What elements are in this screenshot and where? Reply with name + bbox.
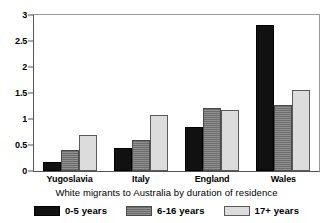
bar[interactable]	[132, 140, 150, 171]
bar[interactable]	[221, 110, 239, 171]
bar[interactable]	[185, 127, 203, 171]
legend-item[interactable]: 6-16 years	[126, 206, 204, 216]
y-axis-tick-label: 3	[22, 11, 27, 20]
legend-label: 0-5 years	[65, 206, 107, 216]
bar[interactable]	[61, 150, 79, 171]
legend-label: 6-16 years	[157, 206, 204, 216]
bars-layer	[34, 15, 319, 171]
bar[interactable]	[79, 135, 97, 171]
bar-group	[105, 15, 176, 171]
y-axis-tick-label: 2.5	[15, 37, 27, 46]
y-axis-tick-mark	[28, 93, 33, 94]
x-axis-category-label: Italy	[132, 174, 150, 185]
bar[interactable]	[150, 115, 168, 171]
y-axis-tick-mark	[28, 15, 33, 16]
bar[interactable]	[203, 108, 221, 171]
x-axis-category-label: England	[195, 174, 230, 185]
bar[interactable]	[274, 105, 292, 171]
x-axis-category-label: Yugoslavia	[47, 174, 93, 185]
x-axis-category-labels: YugoslaviaItalyEnglandWales	[34, 174, 319, 186]
bar[interactable]	[114, 148, 132, 171]
bar-group	[34, 15, 105, 171]
bar-group	[248, 15, 319, 171]
y-axis-tick-label: 2	[22, 63, 27, 72]
y-axis-tick-mark	[28, 171, 33, 172]
bar[interactable]	[292, 90, 310, 171]
y-axis-tick-label: 0.5	[15, 141, 27, 150]
legend-item[interactable]: 17+ years	[224, 206, 300, 216]
y-axis-tick-label: 0	[22, 167, 27, 176]
bar-chart-figure: 00.511.522.53 YugoslaviaItalyEnglandWale…	[0, 0, 333, 223]
bar[interactable]	[256, 25, 274, 171]
legend-swatch-icon	[224, 206, 250, 216]
y-axis-tick-mark	[28, 67, 33, 68]
legend-swatch-icon	[126, 206, 152, 216]
bar[interactable]	[43, 162, 61, 171]
x-axis-category-label: Wales	[271, 174, 296, 185]
y-axis-tick-label: 1	[22, 115, 27, 124]
y-axis-tick-mark	[28, 119, 33, 120]
legend-item[interactable]: 0-5 years	[34, 206, 107, 216]
legend-label: 17+ years	[255, 206, 300, 216]
y-axis-tick-label: 1.5	[15, 89, 27, 98]
bar-group	[177, 15, 248, 171]
y-axis-tick-mark	[28, 41, 33, 42]
x-axis-label: White migrants to Australia by duration …	[0, 187, 333, 198]
chart-legend: 0-5 years6-16 years17+ years	[0, 203, 333, 219]
legend-swatch-icon	[34, 206, 60, 216]
y-axis-tick-mark	[28, 145, 33, 146]
